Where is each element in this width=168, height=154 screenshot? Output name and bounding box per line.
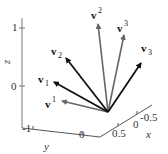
svg-text:v: v	[51, 45, 57, 57]
z-axis-label: z	[0, 59, 12, 65]
svg-text:3: 3	[124, 19, 128, 28]
svg-text:v: v	[141, 42, 147, 54]
y-tick-label--1: -1	[22, 122, 31, 134]
x-axis-label: x	[145, 128, 151, 140]
z-tick-label-0: 0	[11, 80, 17, 92]
label-v-sup-1: v 1	[45, 95, 56, 110]
svg-text:v: v	[45, 98, 51, 110]
svg-text:v: v	[38, 73, 44, 85]
label-v-sub-1: v 1	[38, 73, 49, 88]
y-tick-label-0: 0	[79, 128, 85, 140]
svg-text:v: v	[117, 22, 123, 34]
label-v-sup-3: v 3	[117, 19, 128, 34]
svg-text:1: 1	[52, 95, 56, 104]
vector-v-sup-2	[98, 24, 108, 112]
label-v-sup-2: v 2	[91, 6, 102, 21]
y-axis	[22, 128, 100, 137]
label-v-sub-3: v 3	[141, 42, 152, 57]
vector-diagram: 1 0 z -1 0 y 0.5 0 -0.5 x v 1 v 2 v 3 v …	[0, 0, 168, 154]
x-tick-label-0: 0	[133, 118, 139, 130]
x-tick-label--0.5: -0.5	[140, 111, 158, 123]
label-v-sub-2: v 2	[51, 45, 62, 60]
svg-text:v: v	[91, 9, 97, 21]
svg-text:1: 1	[45, 79, 49, 88]
x-tick-label-0.5: 0.5	[112, 127, 126, 139]
vector-v-sub-1	[54, 82, 108, 112]
svg-text:3: 3	[148, 48, 152, 57]
svg-text:2: 2	[58, 51, 62, 60]
y-axis-label: y	[43, 140, 49, 152]
z-tick-label-1: 1	[12, 21, 18, 33]
svg-text:2: 2	[98, 6, 102, 15]
